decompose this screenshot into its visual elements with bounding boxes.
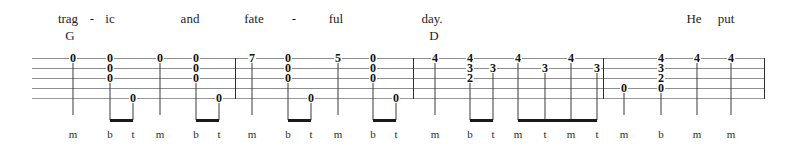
note-stem — [493, 73, 494, 120]
note-stem — [373, 83, 374, 120]
staff-line-3 — [32, 78, 765, 79]
lyric-syllable: fate — [244, 11, 263, 27]
note-stem — [73, 63, 74, 115]
lyric-syllable: ful — [329, 11, 343, 27]
beam — [196, 119, 219, 122]
note-stem — [311, 103, 312, 120]
fingering-mark: m — [620, 128, 629, 140]
fingering-mark: m — [514, 128, 523, 140]
note-stem — [110, 83, 111, 120]
staff-line-2 — [32, 68, 765, 69]
barline — [764, 58, 765, 99]
beam — [288, 119, 311, 122]
note-stem — [470, 83, 471, 120]
note-stem — [435, 63, 436, 115]
fingering-mark: t — [543, 128, 546, 140]
fingering-mark: m — [156, 128, 165, 140]
fingering-mark: m — [248, 128, 257, 140]
fingering-mark: t — [595, 128, 598, 140]
fingering-mark: b — [193, 128, 199, 140]
fingering-mark: m — [431, 128, 440, 140]
tablature-sheet: trag-icandfate-fulday.Heput GD 000000000… — [0, 0, 795, 150]
note-stem — [697, 63, 698, 115]
lyric-syllable: and — [181, 11, 200, 27]
fingering-mark: m — [334, 128, 343, 140]
fingering-mark: b — [107, 128, 113, 140]
note-stem — [597, 73, 598, 120]
note-stem — [219, 103, 220, 120]
lyric-syllable: day. — [421, 11, 442, 27]
fingering-mark: t — [131, 128, 134, 140]
beam — [110, 119, 133, 122]
staff-line-1 — [32, 58, 765, 59]
note-stem — [571, 63, 572, 120]
staff-line-4 — [32, 88, 765, 89]
note-stem — [396, 103, 397, 120]
lyric-syllable: He — [686, 11, 701, 27]
note-stem — [196, 83, 197, 120]
fingering-mark: b — [658, 128, 664, 140]
fingering-mark: t — [394, 128, 397, 140]
note-stem — [288, 83, 289, 120]
note-stem — [731, 63, 732, 115]
note-stem — [518, 63, 519, 120]
fingering-mark: b — [370, 128, 376, 140]
fingering-mark: m — [69, 128, 78, 140]
fingering-mark: m — [693, 128, 702, 140]
chord-symbol: G — [65, 28, 74, 44]
note-stem — [160, 63, 161, 115]
barline — [235, 58, 236, 99]
beam — [518, 119, 597, 122]
barline — [603, 58, 604, 99]
beam — [373, 119, 396, 122]
note-stem — [338, 63, 339, 115]
lyric-syllable: trag — [58, 11, 78, 27]
note-stem — [545, 73, 546, 120]
barline — [413, 58, 414, 99]
fingering-mark: t — [217, 128, 220, 140]
lyric-syllable: ic — [105, 11, 114, 27]
note-stem — [252, 63, 253, 115]
fingering-mark: m — [567, 128, 576, 140]
note-stem — [624, 93, 625, 115]
beam — [470, 119, 493, 122]
chord-symbol: D — [429, 28, 438, 44]
lyric-syllable: - — [90, 11, 94, 27]
fingering-mark: b — [285, 128, 291, 140]
fingering-mark: b — [467, 128, 473, 140]
tab-staff: 000000000070000500004432343430432044 — [32, 58, 765, 100]
fingering-mark: t — [491, 128, 494, 140]
lyric-syllable: put — [718, 11, 735, 27]
note-stem — [133, 103, 134, 120]
fingering-mark: t — [309, 128, 312, 140]
lyric-syllable: - — [292, 11, 296, 27]
note-stem — [661, 93, 662, 115]
fingering-mark: m — [727, 128, 736, 140]
